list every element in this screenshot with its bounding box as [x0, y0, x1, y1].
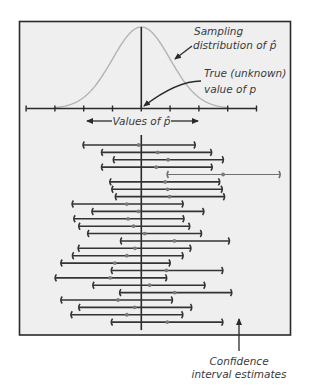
true-value-label-line1: True (unknown) — [204, 67, 286, 79]
point-estimate — [126, 217, 130, 221]
point-estimate — [166, 187, 170, 191]
point-estimate — [168, 195, 172, 199]
point-estimate — [163, 180, 167, 184]
point-estimate — [164, 269, 168, 273]
axis-label: Values of p̂ — [113, 115, 171, 127]
ci-label-line1: Confidence — [209, 355, 268, 367]
sampling-label-line1: Sampling — [194, 25, 243, 37]
ci-label-line2: interval estimates — [191, 368, 287, 380]
point-estimate — [108, 276, 112, 280]
point-estimate — [125, 202, 129, 206]
point-estimate — [125, 254, 129, 258]
point-estimate — [125, 313, 129, 317]
confidence-interval-diagram: Values of p̂ Sampling distribution of p̂… — [0, 0, 312, 391]
point-estimate — [165, 320, 169, 324]
point-estimate — [137, 143, 141, 147]
point-estimate — [173, 291, 177, 295]
point-estimate — [166, 158, 170, 162]
point-estimate — [156, 150, 160, 154]
point-estimate — [173, 239, 177, 243]
point-estimate — [221, 173, 225, 177]
point-estimate — [137, 210, 141, 214]
true-value-label-line2: value of p — [204, 83, 256, 95]
point-estimate — [143, 232, 147, 236]
point-estimate — [154, 165, 158, 169]
point-estimate — [133, 246, 137, 250]
point-estimate — [133, 305, 137, 309]
point-estimate — [132, 224, 136, 228]
point-estimate — [148, 283, 152, 287]
point-estimate — [113, 261, 117, 265]
point-estimate — [116, 298, 120, 302]
sampling-label-line2: distribution of p̂ — [193, 39, 277, 51]
